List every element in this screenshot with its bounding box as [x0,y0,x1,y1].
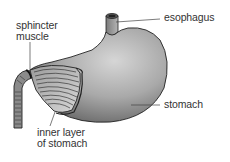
esophagus-leader-line [116,19,160,22]
sphincter-muscle-label: sphincter muscle [16,20,58,42]
stomach-label: stomach [164,99,203,110]
inner-layer-label: inner layer of stomach [37,127,87,149]
stomach-diagram: sphincter muscle esophagus stomach inner… [0,0,230,162]
esophagus-label: esophagus [164,12,214,23]
duodenum-tube [14,70,32,128]
inner-layer-label-line2: of stomach [37,138,87,149]
inner-layer-leader-line [50,112,55,126]
sphincter-label-line2: muscle [16,31,58,42]
